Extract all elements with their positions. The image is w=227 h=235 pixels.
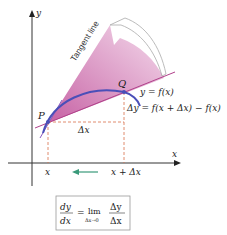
formula-rhs-numerator: Δy [110,202,122,212]
p-label: P [37,110,45,121]
formula-lhs-denominator: dx [60,216,71,226]
y-axis-label: y [35,8,42,18]
formula-lhs-numerator: dy [60,202,72,212]
x-axis-arrow-icon [174,160,181,166]
formula-rhs-denominator: Δx [110,216,122,226]
x-axis-label: x [172,149,177,159]
point-p [46,120,50,124]
formula-lim-subscript: Δx→0 [85,217,99,223]
x-tick-label: x [45,167,50,177]
y-axis-arrow-icon [29,10,35,17]
point-q [122,90,126,94]
q-label: Q [118,78,126,89]
formula-lim: lim [88,207,101,216]
formula-equals: = [77,208,85,218]
derivative-formula: dy dx = lim Δx→0 Δy Δx [56,196,130,230]
x-plus-dx-tick-label: x + Δx [111,167,141,177]
approach-arrow-icon [72,169,79,175]
delta-y-label: Δy = f(x + Δx) − f(x) [126,103,221,113]
derivative-diagram: y x P Q y = f(x) Δy = f(x + Δx) − f(x) Δ… [0,0,227,235]
curve-label: y = f(x) [139,87,174,97]
delta-x-label: Δx [77,125,90,135]
